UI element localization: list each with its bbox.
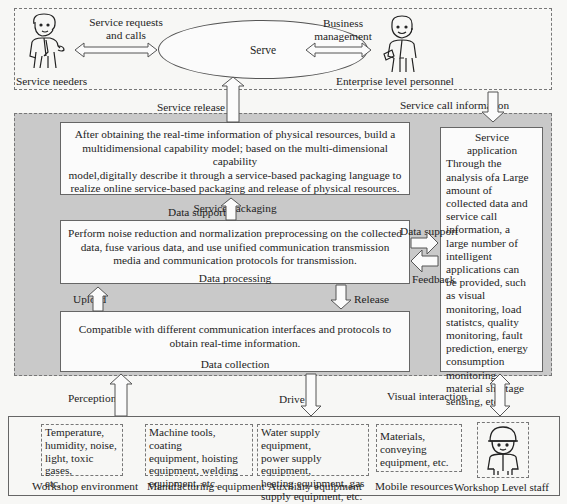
upload-arrow-icon bbox=[88, 287, 108, 311]
workshop-environment-caption: Workshop environment bbox=[32, 480, 138, 492]
resource-item-line: Water supply equipment, bbox=[261, 426, 365, 452]
auxiliary-equipment-caption: Auxiliary equipment bbox=[268, 480, 362, 492]
workshop-staff-caption: Workshop Level staff bbox=[454, 481, 549, 493]
resource-item-line: Materials, bbox=[380, 430, 458, 443]
manufacturing-equipment-caption: Manufacturing equipment bbox=[147, 480, 265, 492]
perception-arrow-icon bbox=[110, 374, 132, 416]
resource-item-line: Machine tools, coating bbox=[149, 426, 249, 452]
workshop-staff-frame bbox=[477, 422, 529, 478]
resource-item-line: equipment, welding bbox=[149, 464, 249, 477]
auxiliary-equipment-items: Water supply equipment, power supply equ… bbox=[257, 424, 369, 476]
release-arrow-icon bbox=[331, 285, 351, 309]
resource-item-line: humidity, noise, bbox=[45, 439, 119, 452]
mobile-resources-caption: Mobile resources bbox=[375, 480, 453, 492]
resource-item-line: light, toxic gases, bbox=[45, 452, 119, 478]
resource-item-line: conveying bbox=[380, 443, 458, 456]
mobile-resources-items: Materials, conveying equipment, etc. bbox=[376, 424, 462, 472]
workshop-environment-items: Temperature, humidity, noise, light, tox… bbox=[41, 424, 123, 476]
resource-item-line: equipment, etc. bbox=[380, 456, 458, 469]
business-management-double-arrow-icon bbox=[306, 43, 371, 57]
manufacturing-equipment-items: Machine tools, coating equipment, hoisti… bbox=[145, 424, 253, 476]
data-support-up-arrow-icon bbox=[221, 198, 241, 220]
resource-item-line: equipment, hoisting bbox=[149, 452, 249, 465]
data-support-right-arrow-icon bbox=[411, 232, 438, 254]
figure-caption-truncated bbox=[190, 496, 390, 504]
workshop-staff-figure-icon bbox=[478, 423, 528, 477]
service-requests-double-arrow-icon bbox=[75, 43, 157, 57]
visual-interaction-double-arrow-icon bbox=[490, 374, 510, 416]
drive-arrow-icon bbox=[301, 374, 321, 416]
service-release-arrow-icon bbox=[222, 77, 244, 122]
resource-item-line: power supply equipment, bbox=[261, 452, 365, 478]
feedback-left-arrow-icon bbox=[411, 250, 438, 272]
service-call-info-arrow-icon bbox=[482, 92, 504, 122]
resource-item-line: Temperature, bbox=[45, 426, 119, 439]
